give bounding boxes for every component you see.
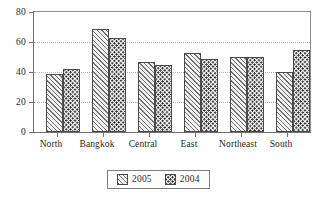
bar-group-northeast xyxy=(230,12,264,132)
legend: 2005 2004 xyxy=(107,170,210,189)
legend-swatch-hatch-icon xyxy=(117,174,128,185)
y-tick-mark xyxy=(29,42,33,43)
legend-label-2005: 2005 xyxy=(132,174,152,185)
x-tick-mark xyxy=(103,133,104,137)
x-tick-label-bangkok: Bangkok xyxy=(72,138,122,150)
bar-2004-east xyxy=(201,59,218,133)
y-axis-labels: 80 60 40 20 0 xyxy=(0,12,26,132)
bar-2004-northeast xyxy=(247,57,264,132)
bar-2005-east xyxy=(184,53,201,133)
legend-swatch-dots-icon xyxy=(165,174,176,185)
y-tick-label: 40 xyxy=(16,67,26,77)
bar-group-bangkok xyxy=(92,12,126,132)
bar-2005-central xyxy=(138,62,155,133)
legend-label-2004: 2004 xyxy=(180,174,200,185)
y-tick-label: 0 xyxy=(21,127,26,137)
x-tick-mark xyxy=(287,133,288,137)
bar-2005-northeast xyxy=(230,57,247,132)
bar-chart: 80 60 40 20 0 xyxy=(0,0,322,202)
y-tick-label: 80 xyxy=(16,7,26,17)
bar-2004-central xyxy=(155,65,172,133)
bar-2004-north xyxy=(63,69,80,132)
y-tick-label: 60 xyxy=(16,37,26,47)
bar-2005-south xyxy=(276,72,293,132)
bar-group-east xyxy=(184,12,218,132)
legend-item-2004: 2004 xyxy=(165,174,200,185)
x-tick-mark xyxy=(149,133,150,137)
plot-area xyxy=(34,12,310,132)
y-tick-mark xyxy=(29,72,33,73)
bar-2004-bangkok xyxy=(109,38,126,133)
y-tick-mark xyxy=(29,12,33,13)
bar-2005-north xyxy=(46,74,63,133)
bar-2004-south xyxy=(293,50,310,133)
bar-group-central xyxy=(138,12,172,132)
y-tick-mark xyxy=(29,132,33,133)
legend-item-2005: 2005 xyxy=(117,174,152,185)
x-tick-mark xyxy=(241,133,242,137)
x-tick-label-north: North xyxy=(26,138,76,150)
bar-group-south xyxy=(276,12,310,132)
bar-group-north xyxy=(46,12,80,132)
bar-2005-bangkok xyxy=(92,29,109,133)
y-tick-label: 20 xyxy=(16,97,26,107)
x-tick-label-south: South xyxy=(256,138,306,150)
x-tick-label-central: Central xyxy=(118,138,168,150)
x-tick-mark xyxy=(57,133,58,137)
y-tick-mark xyxy=(29,102,33,103)
x-tick-mark xyxy=(195,133,196,137)
